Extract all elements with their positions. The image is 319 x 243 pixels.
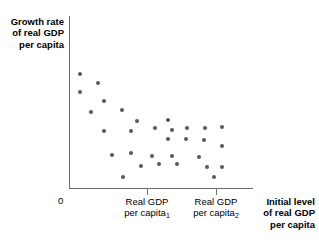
data-point [135,119,139,123]
x-axis-tick [216,189,217,195]
x-axis-line [69,188,253,189]
data-point [175,162,179,166]
data-point [78,72,82,76]
scatter-chart-figure: Growth rate of real GDP per capita 0 Ini… [0,0,319,243]
x-axis-tick-label: Real GDPper capita2 [173,196,259,222]
data-point [120,108,124,112]
data-point [89,110,93,114]
origin-label: 0 [58,195,63,206]
data-point [139,164,143,168]
data-point [170,154,174,158]
tick-label-line-1: Real GDP [173,196,259,207]
data-point [220,125,224,129]
data-point [102,129,106,133]
data-point [110,153,114,157]
data-point [185,126,189,130]
data-point [157,162,161,166]
data-point [220,144,224,148]
data-point [96,81,100,85]
tick-label-subscript: 1 [166,212,170,219]
data-point [166,118,170,122]
data-point [121,175,125,179]
tick-label-subscript: 2 [235,212,239,219]
data-point [184,137,188,141]
data-point [203,126,207,130]
data-point [170,128,174,132]
data-point [102,99,106,103]
x-axis-tick [147,189,148,195]
y-axis-title: Growth rate of real GDP per capita [6,16,64,50]
data-point [166,137,170,141]
data-point [129,129,133,133]
data-point [212,175,216,179]
data-point [153,126,157,130]
data-point [202,138,206,142]
y-axis-line [69,16,70,189]
data-point [150,154,154,158]
tick-label-line-2: per capita2 [173,207,259,221]
data-point [129,151,133,155]
data-point [205,165,209,169]
data-point [220,165,224,169]
data-point [197,155,201,159]
data-point [78,90,82,94]
